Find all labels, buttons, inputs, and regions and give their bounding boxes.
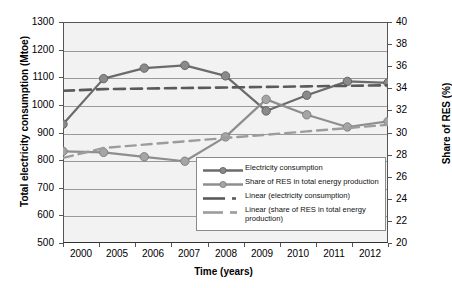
x-axis-title: Time (years)	[0, 266, 447, 277]
data-point	[262, 95, 270, 103]
data-point	[262, 107, 270, 115]
x-tick	[352, 243, 353, 247]
x-tick	[280, 243, 281, 247]
legend-item-share-of-res[interactable]: Share of RES in total energy production	[201, 176, 382, 187]
y-left-tick-label: 800	[14, 155, 54, 165]
x-tick	[171, 243, 172, 247]
y-right-tick-label: 22	[396, 216, 422, 226]
y-right-tick-label: 40	[396, 17, 422, 27]
chart-legend: Electricity consumption Share of RES in …	[196, 157, 386, 231]
legend-label: Share of RES in total energy production	[245, 176, 379, 186]
y-right-tick-label: 30	[396, 128, 422, 138]
series-line	[63, 85, 388, 91]
y-right-tick	[388, 221, 392, 222]
y-right-tick	[388, 66, 392, 67]
y-left-tick-label: 1100	[14, 72, 54, 82]
y-left-tick-label: 600	[14, 210, 54, 220]
y-left-tick-label: 900	[14, 128, 54, 138]
y-right-tick-label: 34	[396, 83, 422, 93]
x-tick-label: 2010	[278, 249, 318, 259]
y-right-tick-label: 36	[396, 61, 422, 71]
y-right-tick	[388, 44, 392, 45]
data-point	[63, 147, 67, 155]
legend-label: Linear (share of RES in total energy pro…	[245, 204, 382, 223]
x-tick-label: 2009	[242, 249, 282, 259]
legend-label: Linear (electricity consumption)	[245, 190, 350, 200]
x-tick	[244, 243, 245, 247]
x-tick	[208, 243, 209, 247]
y-right-tick-label: 32	[396, 105, 422, 115]
y-right-tick-label: 38	[396, 39, 422, 49]
y-right-tick	[388, 199, 392, 200]
y-axis-left-title: Total electricity consumption (Mtoe)	[19, 2, 30, 242]
x-tick-label: 2000	[61, 249, 101, 259]
x-tick	[99, 243, 100, 247]
y-right-tick-label: 28	[396, 150, 422, 160]
data-point	[221, 72, 229, 80]
y-right-tick	[388, 177, 392, 178]
y-left-tick-label: 500	[14, 238, 54, 248]
y-left-tick-label: 1200	[14, 45, 54, 55]
legend-item-linear-share-of-res[interactable]: Linear (share of RES in total energy pro…	[201, 204, 382, 223]
y-right-tick	[388, 155, 392, 156]
data-point	[99, 74, 107, 82]
y-left-tick-label: 700	[14, 183, 54, 193]
data-point	[140, 153, 148, 161]
data-point	[181, 157, 189, 165]
data-point	[303, 91, 311, 99]
x-tick-label: 2011	[314, 249, 354, 259]
x-tick-label: 2012	[350, 249, 390, 259]
data-point	[140, 64, 148, 72]
y-right-tick-label: 20	[396, 238, 422, 248]
x-tick-label: 2007	[169, 249, 209, 259]
x-tick-label: 2005	[97, 249, 137, 259]
data-point	[343, 77, 351, 85]
series-line	[63, 99, 388, 161]
legend-key-line-marker-icon	[201, 162, 245, 173]
x-tick	[135, 243, 136, 247]
y-right-tick	[388, 133, 392, 134]
y-axis-right-title: Share of RES (%)	[441, 24, 452, 224]
x-tick	[316, 243, 317, 247]
y-left-tick-label: 1000	[14, 100, 54, 110]
x-tick	[63, 243, 64, 247]
legend-item-linear-electricity-consumption[interactable]: Linear (electricity consumption)	[201, 190, 382, 201]
legend-key-dashed-line-icon	[201, 190, 245, 201]
y-right-tick	[388, 22, 392, 23]
y-right-tick-label: 24	[396, 194, 422, 204]
y-left-tick-label: 1300	[14, 17, 54, 27]
x-tick-label: 2008	[206, 249, 246, 259]
y-right-tick-label: 26	[396, 172, 422, 182]
legend-key-dashed-line-icon	[201, 204, 245, 215]
data-point	[63, 120, 67, 128]
legend-key-line-marker-icon	[201, 176, 245, 187]
x-tick	[388, 243, 389, 247]
y-right-tick	[388, 110, 392, 111]
data-point	[303, 111, 311, 119]
legend-item-electricity-consumption[interactable]: Electricity consumption	[201, 162, 382, 173]
legend-label: Electricity consumption	[245, 162, 323, 172]
y-right-tick	[388, 88, 392, 89]
x-tick-label: 2006	[133, 249, 173, 259]
data-point	[181, 61, 189, 69]
